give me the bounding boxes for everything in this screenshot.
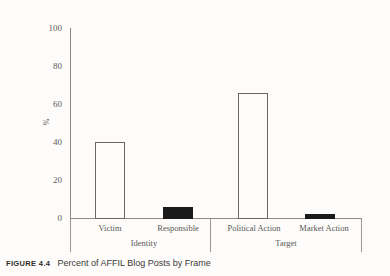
figure-caption-text: Percent of AFFIL Blog Posts by Frame [58,258,211,268]
category-bracket: Victim Responsible Political Action Mark… [0,0,390,252]
bracket-edge-left [70,219,71,252]
bracket-divider-center [210,219,211,252]
figure-caption: FIGURE 4.4 Percent of AFFIL Blog Posts b… [6,256,386,270]
figure-page: 100 80 60 40 20 0 % [0,0,390,276]
group-label-identity: Identity [80,238,208,248]
bracket-edge-right [361,219,362,252]
category-label-political-action: Political Action [216,223,292,233]
category-label-responsible: Responsible [148,223,208,233]
group-label-target: Target [212,238,360,248]
category-label-victim: Victim [80,223,140,233]
figure-caption-number: FIGURE 4.4 [6,259,55,268]
category-label-market-action: Market Action [288,223,360,233]
bar-chart: 100 80 60 40 20 0 % [0,0,390,252]
